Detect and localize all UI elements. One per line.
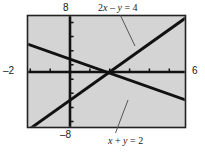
eq2-operator: + (115, 135, 121, 146)
y-axis-max-label: 8 (63, 3, 69, 13)
eq2-rhs: = 2 (130, 135, 143, 146)
eq1-var-x: x (103, 2, 107, 13)
eq2-var-y: y (123, 135, 127, 146)
y-axis-min-label: –8 (60, 130, 71, 140)
eq1-operator: – (110, 2, 115, 13)
eq2-var-x: x (108, 135, 112, 146)
coordinate-plane-plot (0, 0, 205, 155)
graph-figure: 8 –8 –2 6 2x – y = 4 x + y = 2 (0, 0, 205, 155)
eq1-rhs: = 4 (124, 2, 137, 13)
x-axis-max-label: 6 (192, 66, 198, 76)
eq1-var-y: y (117, 2, 121, 13)
equation-label-line-1: 2x – y = 4 (98, 3, 138, 13)
equation-label-line-2: x + y = 2 (108, 136, 143, 146)
x-axis-min-label: –2 (3, 66, 14, 76)
